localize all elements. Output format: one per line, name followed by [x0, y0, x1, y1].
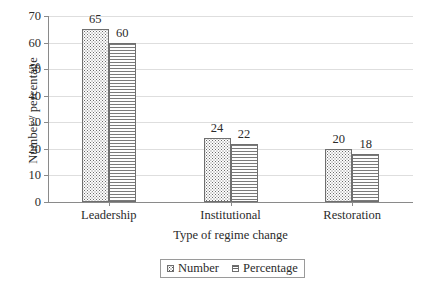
- bar: 60: [109, 43, 136, 202]
- x-axis-tick-mark: [109, 202, 110, 206]
- x-axis-tick-label: Institutional: [200, 208, 260, 223]
- x-axis-tick-label: Restoration: [323, 208, 381, 223]
- y-axis-tick-mark: [44, 175, 48, 176]
- y-axis-tick-label: 0: [35, 195, 41, 210]
- bar: 22: [231, 144, 258, 202]
- y-axis-tick-label: 10: [29, 168, 42, 183]
- bar: 65: [82, 29, 109, 202]
- y-axis-tick-mark: [44, 122, 48, 123]
- bar-value-label: 65: [89, 12, 102, 27]
- legend-item-label: Percentage: [243, 261, 298, 276]
- x-axis-tick-mark: [231, 202, 232, 206]
- y-axis-tick-label: 70: [29, 9, 42, 24]
- x-axis-tick-mark: [352, 202, 353, 206]
- y-axis-tick-label: 60: [29, 35, 42, 50]
- legend-item: Percentage: [232, 261, 298, 276]
- bar: 20: [325, 149, 352, 202]
- legend-swatch-icon: [167, 265, 174, 272]
- legend-item: Number: [167, 261, 219, 276]
- x-axis-title: Type of regime change: [48, 228, 413, 243]
- y-axis-tick-mark: [44, 43, 48, 44]
- y-axis-tick-mark: [44, 202, 48, 203]
- y-axis-tick-mark: [44, 69, 48, 70]
- y-axis-tick-label: 30: [29, 115, 42, 130]
- bar: 18: [352, 154, 379, 202]
- gridline: [49, 16, 413, 17]
- legend: NumberPercentage: [160, 259, 305, 278]
- y-axis-tick-mark: [44, 96, 48, 97]
- bar: 24: [204, 138, 231, 202]
- bar-value-label: 24: [211, 121, 224, 136]
- x-axis-tick-label: Leadership: [81, 208, 137, 223]
- legend-item-label: Number: [178, 261, 219, 276]
- bar-value-label: 20: [332, 132, 345, 147]
- y-axis-tick-label: 40: [29, 88, 42, 103]
- y-axis-tick-label: 20: [29, 141, 42, 156]
- bar-value-label: 18: [359, 137, 372, 152]
- bar-chart: Number / percentage 010203040506070 6560…: [0, 0, 426, 289]
- y-axis-tick-label: 50: [29, 62, 42, 77]
- bar-value-label: 22: [238, 127, 251, 142]
- legend-swatch-icon: [232, 265, 239, 272]
- bar-value-label: 60: [116, 26, 129, 41]
- plot-area: 010203040506070 656024222018 LeadershipI…: [48, 16, 413, 202]
- y-axis-tick-mark: [44, 149, 48, 150]
- y-axis-tick-mark: [44, 16, 48, 17]
